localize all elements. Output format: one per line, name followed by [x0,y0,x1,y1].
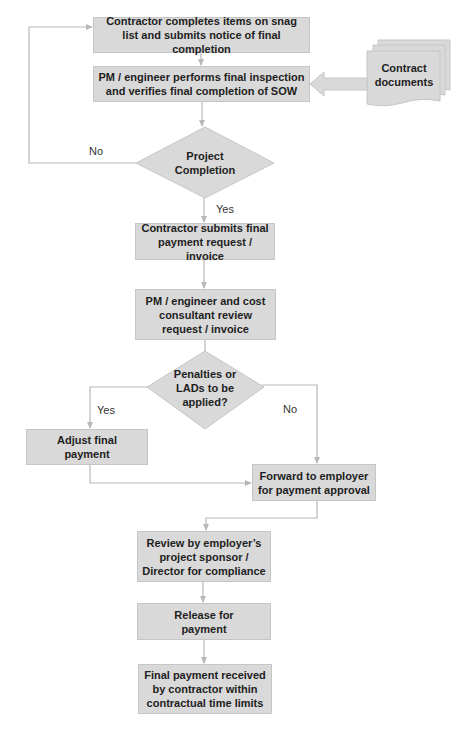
step-adjust-payment: Adjust final payment [26,429,148,465]
decision-project-completion: Project Completion [165,148,245,178]
step-release-payment: Release for payment [137,603,271,640]
decision-penalties: Penalties or LADs to be applied? [172,366,238,410]
step-final-inspection: PM / engineer performs final inspection … [93,66,310,102]
edge-label-penalties-yes: Yes [97,404,115,416]
edge-label-completion-yes: Yes [216,203,234,215]
step-snag-list: Contractor completes items on snag list … [93,17,310,53]
step-sponsor-review: Review by employer’s project sponsor / D… [137,531,271,582]
step-forward-employer: Forward to employer for payment approval [252,464,376,501]
edge-label-penalties-no: No [283,403,297,415]
step-payment-received: Final payment received by contractor wit… [138,664,272,714]
step-review-invoice: PM / engineer and cost consultant review… [135,289,276,340]
edge-label-completion-no: No [89,145,103,157]
contract-documents-label: Contract documents [369,54,439,96]
step-submit-invoice: Contractor submits final payment request… [135,223,275,260]
block-arrow-icon [310,72,367,96]
